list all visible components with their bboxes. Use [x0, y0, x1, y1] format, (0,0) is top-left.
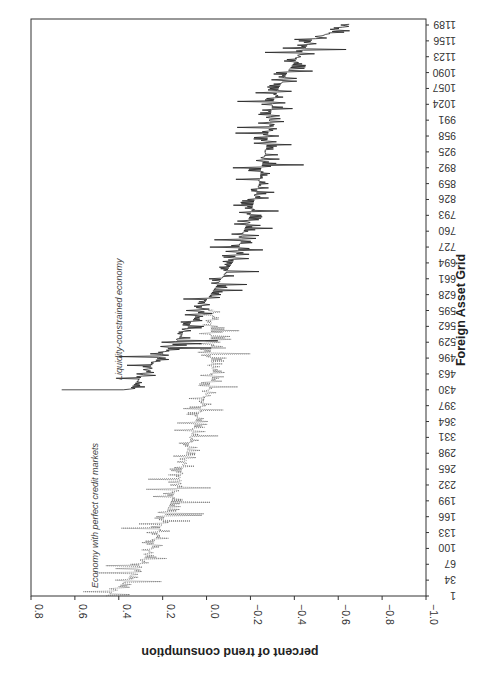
- svg-text:364: 364: [438, 416, 456, 428]
- svg-text:1123: 1123: [433, 51, 456, 63]
- svg-text:1024: 1024: [432, 98, 456, 110]
- svg-text:0.6: 0.6: [77, 604, 89, 619]
- svg-text:−0.8: −0.8: [384, 604, 396, 625]
- svg-text:1189: 1189: [433, 19, 456, 31]
- svg-text:1: 1: [450, 590, 456, 602]
- svg-text:34: 34: [444, 574, 456, 586]
- svg-text:166: 166: [438, 511, 456, 523]
- svg-text:727: 727: [438, 241, 456, 253]
- svg-text:199: 199: [438, 495, 456, 507]
- svg-text:892: 892: [438, 162, 456, 174]
- svg-text:826: 826: [438, 193, 456, 205]
- svg-text:793: 793: [438, 209, 456, 221]
- svg-text:−0.4: −0.4: [296, 604, 308, 625]
- svg-text:925: 925: [438, 146, 456, 158]
- x-axis-ticks: 1346710013316619923226529833136439743046…: [426, 19, 456, 602]
- svg-text:1156: 1156: [433, 35, 456, 47]
- annotation-perfect-credit: Economy with perfect credit markets: [90, 442, 100, 588]
- svg-text:−1.0: −1.0: [428, 604, 440, 625]
- svg-text:100: 100: [438, 542, 456, 554]
- svg-text:859: 859: [438, 178, 456, 190]
- svg-text:298: 298: [438, 447, 456, 459]
- svg-text:232: 232: [438, 479, 456, 491]
- svg-text:0.8: 0.8: [33, 604, 45, 619]
- svg-text:0.4: 0.4: [121, 604, 133, 619]
- svg-text:463: 463: [438, 368, 456, 380]
- svg-text:331: 331: [438, 431, 456, 443]
- svg-text:430: 430: [438, 384, 456, 396]
- svg-text:265: 265: [438, 463, 456, 475]
- y-axis-title: percent of trend consumption: [141, 645, 318, 659]
- svg-text:1057: 1057: [432, 82, 456, 94]
- svg-text:0.0: 0.0: [209, 604, 221, 619]
- annotation-liquidity-constrained: Liquidity-constrained economy: [114, 258, 124, 380]
- svg-text:133: 133: [438, 527, 456, 539]
- x-axis-title: Foreign Asset Grid: [454, 254, 468, 366]
- svg-text:−0.2: −0.2: [252, 604, 264, 625]
- svg-text:397: 397: [438, 400, 456, 412]
- chart: 0.80.60.40.20.0−0.2−0.4−0.6−0.8−1.0 1346…: [0, 0, 488, 681]
- svg-text:958: 958: [438, 130, 456, 142]
- svg-text:991: 991: [438, 114, 456, 126]
- y-axis-ticks: 0.80.60.40.20.0−0.2−0.4−0.6−0.8−1.0: [31, 596, 440, 625]
- svg-text:0.2: 0.2: [165, 604, 177, 619]
- svg-text:760: 760: [438, 225, 456, 237]
- svg-text:1090: 1090: [432, 67, 456, 79]
- svg-text:67: 67: [444, 558, 456, 570]
- svg-text:−0.6: −0.6: [340, 604, 352, 625]
